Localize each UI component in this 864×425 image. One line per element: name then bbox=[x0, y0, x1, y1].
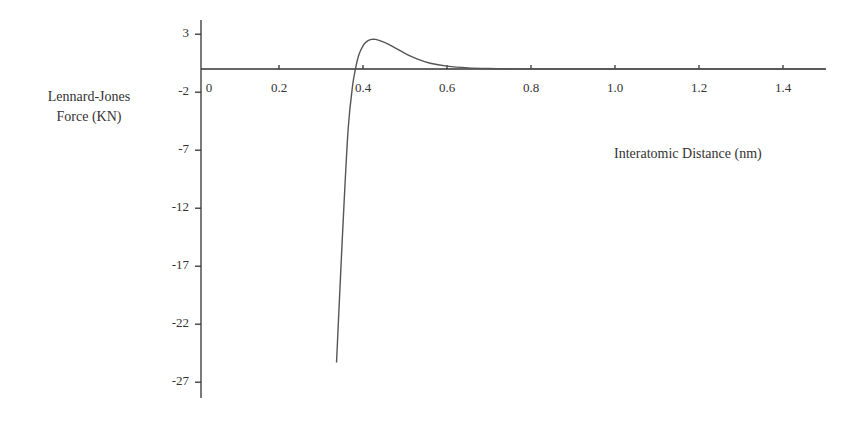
y-tick-label: -12 bbox=[149, 199, 189, 215]
x-tick-label: 1.2 bbox=[679, 80, 719, 96]
y-tick-label: 3 bbox=[149, 25, 189, 41]
chart-plot-area bbox=[0, 0, 864, 425]
y-tick-label: -2 bbox=[149, 83, 189, 99]
force-curve-line bbox=[337, 39, 825, 362]
y-axis-label-line-1: Lennard-Jones bbox=[34, 87, 144, 107]
y-tick-label: -17 bbox=[149, 257, 189, 273]
y-axis-label: Lennard-Jones Force (KN) bbox=[34, 87, 144, 127]
y-axis-label-line-2: Force (KN) bbox=[34, 107, 144, 127]
x-tick-label: 0.4 bbox=[343, 80, 383, 96]
y-tick-label: -22 bbox=[149, 315, 189, 331]
x-tick-label: 0.2 bbox=[259, 80, 299, 96]
x-tick-label: 1.0 bbox=[595, 80, 635, 96]
x-tick-label: 0.8 bbox=[511, 80, 551, 96]
x-tick-label: 0 bbox=[189, 80, 229, 96]
x-tick-label: 0.6 bbox=[427, 80, 467, 96]
x-tick-label: 1.4 bbox=[763, 80, 803, 96]
x-axis-label: Interatomic Distance (nm) bbox=[614, 146, 762, 162]
y-tick-label: -7 bbox=[149, 141, 189, 157]
y-tick-label: -27 bbox=[149, 373, 189, 389]
